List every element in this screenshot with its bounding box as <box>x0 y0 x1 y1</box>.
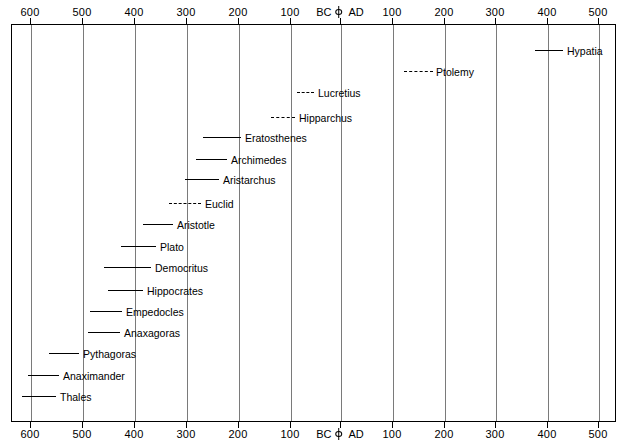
entry-label-anaxagoras: Anaxagoras <box>124 326 180 340</box>
axis-tick-mark-top-1 <box>82 18 83 24</box>
axis-tick-mark-bottom-7 <box>392 422 393 428</box>
axis-origin-marker-bottom: BCAD <box>316 428 364 440</box>
lifeline-thales <box>22 396 56 397</box>
lifeline-empedocles <box>90 311 122 312</box>
entry-label-lucretius: Lucretius <box>318 86 361 100</box>
timeline-entry-democritus: Democritus <box>12 261 615 275</box>
axis-tick-label-top-4: 200 <box>229 6 248 18</box>
timeline-entry-anaximander: Anaximander <box>12 369 615 383</box>
axis-tick-mark-top-8 <box>444 18 445 24</box>
axis-tick-mark-top-7 <box>392 18 393 24</box>
axis-tick-label-bottom-11: 500 <box>589 428 608 440</box>
lifeline-ptolemy <box>404 71 433 72</box>
entry-label-aristarchus: Aristarchus <box>223 173 276 187</box>
entry-label-ptolemy: Ptolemy <box>436 65 474 79</box>
timeline-entry-eratosthenes: Eratosthenes <box>12 131 615 145</box>
entry-label-hipparchus: Hipparchus <box>299 111 352 125</box>
axis-tick-label-top-5: 100 <box>281 6 300 18</box>
timeline-entry-archimedes: Archimedes <box>12 153 615 167</box>
era-label-ad: AD <box>349 6 364 18</box>
axis-tick-mark-top-5 <box>290 18 291 24</box>
axis-tick-label-top-0: 600 <box>21 6 40 18</box>
axis-tick-label-bottom-1: 500 <box>73 428 92 440</box>
axis-tick-mark-bottom-5 <box>290 422 291 428</box>
timeline-chart: 600500400300200100BCAD100200300400500 Hy… <box>0 0 627 447</box>
axis-tick-label-top-11: 500 <box>589 6 608 18</box>
axis-tick-mark-bottom-10 <box>547 422 548 428</box>
era-label-bc: BC <box>316 6 331 18</box>
entry-label-hypatia: Hypatia <box>567 44 603 58</box>
entry-label-empedocles: Empedocles <box>126 305 184 319</box>
timeline-entry-hipparchus: Hipparchus <box>12 111 615 125</box>
axis-tick-mark-top-3 <box>186 18 187 24</box>
timeline-entry-hippocrates: Hippocrates <box>12 284 615 298</box>
axis-tick-label-top-9: 300 <box>486 6 505 18</box>
lifeline-eratosthenes <box>203 137 241 138</box>
timeline-entry-euclid: Euclid <box>12 197 615 211</box>
axis-tick-label-bottom-5: 100 <box>281 428 300 440</box>
timeline-entry-aristotle: Aristotle <box>12 218 615 232</box>
timeline-entry-lucretius: Lucretius <box>12 86 615 100</box>
era-label-ad: AD <box>349 428 364 440</box>
entry-label-archimedes: Archimedes <box>231 153 286 167</box>
timeline-entry-plato: Plato <box>12 240 615 254</box>
entry-label-plato: Plato <box>160 240 184 254</box>
axis-origin-marker-top: BCAD <box>316 6 364 18</box>
axis-tick-mark-bottom-0 <box>30 422 31 428</box>
axis-tick-mark-top-6 <box>340 18 341 24</box>
lifeline-aristotle <box>143 224 173 225</box>
axis-tick-label-top-3: 300 <box>177 6 196 18</box>
axis-tick-label-bottom-4: 200 <box>229 428 248 440</box>
lifeline-hypatia <box>535 50 563 51</box>
axis-tick-label-bottom-0: 600 <box>21 428 40 440</box>
entry-label-aristotle: Aristotle <box>177 218 215 232</box>
lifeline-archimedes <box>196 159 227 160</box>
axis-tick-label-bottom-10: 400 <box>538 428 557 440</box>
lifeline-anaximander <box>28 375 59 376</box>
lifeline-lucretius <box>297 92 314 93</box>
lifeline-hippocrates <box>108 290 143 291</box>
axis-tick-label-bottom-9: 300 <box>486 428 505 440</box>
timeline-entry-pythagoras: Pythagoras <box>12 347 615 361</box>
axis-tick-mark-top-9 <box>495 18 496 24</box>
axis-tick-mark-bottom-1 <box>82 422 83 428</box>
axis-tick-mark-bottom-4 <box>238 422 239 428</box>
axis-tick-label-bottom-2: 400 <box>125 428 144 440</box>
entry-label-pythagoras: Pythagoras <box>83 347 136 361</box>
axis-tick-mark-top-4 <box>238 18 239 24</box>
axis-tick-mark-top-10 <box>547 18 548 24</box>
axis-tick-mark-bottom-9 <box>495 422 496 428</box>
lifeline-euclid <box>169 203 201 204</box>
axis-tick-label-top-1: 500 <box>73 6 92 18</box>
axis-bottom: 600500400300200100BCAD100200300400500 <box>0 428 627 444</box>
lifeline-pythagoras <box>49 353 79 354</box>
era-label-bc: BC <box>316 428 331 440</box>
axis-tick-mark-top-0 <box>30 18 31 24</box>
axis-tick-mark-bottom-11 <box>598 422 599 428</box>
timeline-entry-anaxagoras: Anaxagoras <box>12 326 615 340</box>
axis-top: 600500400300200100BCAD100200300400500 <box>0 6 627 22</box>
entry-label-eratosthenes: Eratosthenes <box>245 131 307 145</box>
lifeline-aristarchus <box>185 179 219 180</box>
timeline-entry-empedocles: Empedocles <box>12 305 615 319</box>
lifeline-plato <box>121 246 156 247</box>
origin-marker-icon <box>335 428 346 440</box>
entry-label-hippocrates: Hippocrates <box>147 284 203 298</box>
entry-label-anaximander: Anaximander <box>63 369 125 383</box>
timeline-entry-hypatia: Hypatia <box>12 44 615 58</box>
axis-tick-mark-top-2 <box>134 18 135 24</box>
lifeline-democritus <box>104 267 151 268</box>
axis-tick-label-bottom-8: 200 <box>435 428 454 440</box>
timeline-entry-ptolemy: Ptolemy <box>12 65 615 79</box>
timeline-entry-thales: Thales <box>12 390 615 404</box>
entry-label-euclid: Euclid <box>205 197 234 211</box>
axis-tick-mark-bottom-3 <box>186 422 187 428</box>
plot-area: HypatiaPtolemyLucretiusHipparchusEratost… <box>11 24 616 422</box>
axis-tick-label-bottom-3: 300 <box>177 428 196 440</box>
axis-tick-label-top-10: 400 <box>538 6 557 18</box>
lifeline-anaxagoras <box>88 332 120 333</box>
axis-tick-mark-top-11 <box>598 18 599 24</box>
axis-tick-label-top-7: 100 <box>383 6 402 18</box>
lifeline-hipparchus <box>271 117 295 118</box>
origin-marker-icon <box>335 6 346 18</box>
